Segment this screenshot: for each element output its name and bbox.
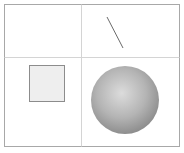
sphere-shape — [91, 66, 159, 134]
square-shape — [30, 66, 65, 102]
diagram-canvas — [0, 0, 184, 153]
